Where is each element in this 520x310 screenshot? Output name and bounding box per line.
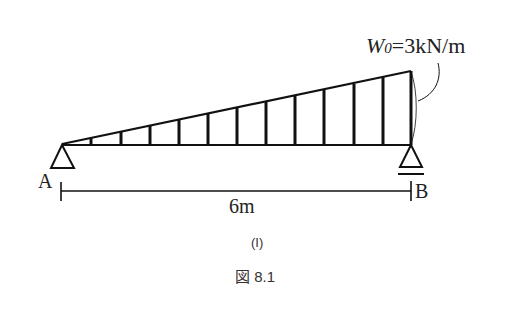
support-b-label: B [415,180,428,202]
beam-diagram: W0=3kN/m A B 6m (I) 図 8.1 [0,0,520,310]
support-a-label: A [38,170,53,192]
load-label: W0=3kN/m [366,33,465,58]
support-b-roller [400,145,422,167]
load-leader-line [418,63,439,101]
support-a-pin [51,145,74,168]
span-label: 6m [229,195,255,217]
subfigure-label: (I) [251,235,263,250]
figure-caption: 図 8.1 [235,268,275,285]
